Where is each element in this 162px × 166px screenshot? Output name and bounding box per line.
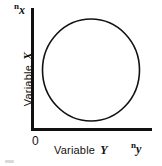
x-axis-title: VariableY [54, 144, 108, 156]
axis-lines [31, 8, 152, 130]
y-axis-end-symbol-subscript: x [19, 3, 25, 17]
y-axis-title: VariableX [22, 31, 34, 127]
y-axis-title-text: Variable [22, 65, 34, 106]
x-axis-title-text: Variable [54, 144, 95, 156]
y-axis-end-symbol: nx [14, 2, 25, 16]
x-axis-end-symbol: ny [131, 141, 141, 155]
y-axis-variable-letter: X [21, 52, 35, 60]
x-axis-variable-letter: Y [100, 143, 108, 157]
scan-artifact-speck [5, 160, 14, 163]
origin-tick-label: 0 [32, 135, 39, 147]
figure-container: nx ny 0 VariableY VariableX [0, 0, 162, 166]
x-axis-end-symbol-subscript: y [136, 142, 141, 156]
data-contour-circle [43, 19, 140, 121]
